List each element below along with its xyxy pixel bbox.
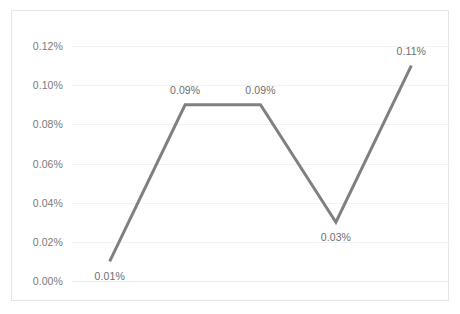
data-point-label: 0.03% — [321, 231, 351, 243]
chart-frame: 0.00%0.02%0.04%0.06%0.08%0.10%0.12% Kazb… — [11, 10, 449, 301]
data-point-label: 0.11% — [397, 45, 427, 57]
y-axis-tick-label: 0.00% — [33, 275, 63, 287]
y-axis-tick-label: 0.04% — [33, 197, 63, 209]
y-axis-tick-label: 0.10% — [33, 79, 63, 91]
y-axis-tick-label: 0.12% — [33, 40, 63, 52]
y-axis-tick-label: 0.06% — [33, 158, 63, 170]
y-axis-tick-label: 0.08% — [33, 118, 63, 130]
y-axis-tick-label: 0.02% — [33, 236, 63, 248]
data-point-label: 0.09% — [245, 84, 275, 96]
data-point-label: 0.01% — [95, 270, 125, 282]
gridline — [72, 281, 449, 282]
plot-area: 0.00%0.02%0.04%0.06%0.08%0.10%0.12% Kazb… — [72, 46, 449, 281]
data-point-label: 0.09% — [170, 84, 200, 96]
line-series — [72, 46, 449, 281]
